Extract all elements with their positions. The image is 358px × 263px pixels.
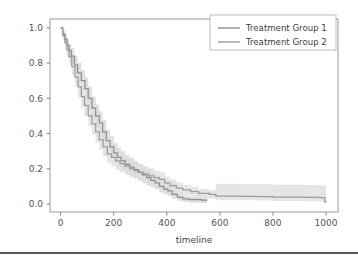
x-tick-label: 200 <box>105 218 122 228</box>
x-tick-label: 600 <box>211 218 228 228</box>
y-tick-label: 0.6 <box>29 94 44 104</box>
x-tick-label: 0 <box>58 218 64 228</box>
x-tick-label: 400 <box>158 218 175 228</box>
y-tick-label: 1.0 <box>29 23 44 33</box>
legend-label-1: Treatment Group 1 <box>245 23 327 33</box>
y-tick-label: 0.2 <box>29 164 43 174</box>
y-tick-label: 0.8 <box>29 58 44 68</box>
legend-label-2: Treatment Group 2 <box>245 37 327 47</box>
chart-legend[interactable]: Treatment Group 1Treatment Group 2 <box>210 15 336 50</box>
survival-chart: 02004006008001000 0.00.20.40.60.81.0 tim… <box>0 0 358 263</box>
x-tick-label: 800 <box>264 218 281 228</box>
x-axis-title: timeline <box>176 235 213 245</box>
page-separator-rule <box>0 252 358 254</box>
y-tick-label: 0.4 <box>29 129 44 139</box>
figure-container: 02004006008001000 0.00.20.40.60.81.0 tim… <box>0 0 358 263</box>
y-tick-label: 0.0 <box>29 199 44 209</box>
x-tick-label: 1000 <box>315 218 338 228</box>
